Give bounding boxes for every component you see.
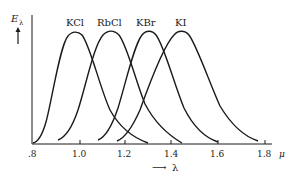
- x-tick-label: 1.8: [257, 149, 272, 159]
- series-label-ki: KI: [175, 17, 186, 28]
- x-tick-label: 1.4: [164, 149, 179, 159]
- series-label-rbcl: RbCl: [97, 17, 122, 28]
- y-axis-subscript: λ: [19, 19, 24, 27]
- emission-spectra-chart: .8 1.0 1.2 1.4 1.6 1.8 μ ⟶ λ E λ KCl RbC…: [0, 0, 294, 174]
- series-label-kcl: KCl: [66, 17, 84, 28]
- x-tick-label: 1.6: [210, 149, 225, 159]
- spectral-curves: [33, 31, 258, 143]
- curve-kbr: [98, 31, 218, 142]
- x-unit-label: μ: [279, 149, 285, 159]
- x-tick-label: 1.0: [72, 149, 87, 159]
- x-tick-label: 1.2: [117, 149, 131, 159]
- up-arrow-icon: [16, 27, 21, 44]
- curve-rbcl: [58, 31, 182, 143]
- x-axis-arrow: ⟶: [152, 162, 166, 173]
- y-axis-label: E: [10, 13, 19, 24]
- x-axis-label: λ: [172, 162, 179, 173]
- x-tick-marks: [80, 140, 265, 144]
- series-label-kbr: KBr: [136, 17, 156, 28]
- x-tick-label: .8: [28, 149, 37, 159]
